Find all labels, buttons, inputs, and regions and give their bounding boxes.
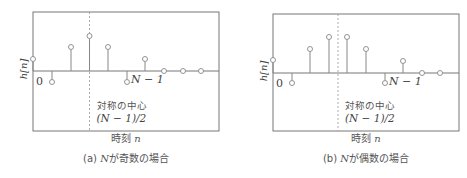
panel-b-stem-marker xyxy=(271,58,276,63)
panel-b-center-expr: (N − 1)/2 xyxy=(345,112,395,124)
panel-a-center-label: 対称の中心 xyxy=(97,100,147,111)
panel-a-center-expr: (N − 1)/2 xyxy=(97,112,147,124)
panel-a-ylabel: h[n] xyxy=(18,59,29,80)
panel-b-stem-marker xyxy=(327,35,332,40)
panel-a-stem-marker xyxy=(87,34,92,39)
panel-b-caption: (b) Nが偶数の場合 xyxy=(323,152,409,164)
panel-b-ylabel: h[n] xyxy=(258,61,269,82)
panel-a-stem-marker xyxy=(106,45,111,50)
panel-a-stem-marker xyxy=(125,80,130,85)
panel-b-center-label: 対称の中心 xyxy=(345,100,395,111)
panel-b-stem-marker xyxy=(401,59,406,64)
panel-b-stem-marker xyxy=(383,81,388,86)
panel-a-stem-marker xyxy=(199,69,204,74)
panel-a-stem-marker xyxy=(181,69,186,74)
panel-a-end-label: N − 1 xyxy=(130,73,164,86)
panel-a-stem-marker xyxy=(69,45,74,50)
panel-b-end-label: N − 1 xyxy=(388,75,422,88)
panel-a-origin-label: 0 xyxy=(36,75,43,88)
panel-a-xlabel: 時刻 n xyxy=(111,132,141,144)
panel-b-stem-marker xyxy=(364,47,369,52)
panel-b-stem-marker xyxy=(308,47,313,52)
panel-a-stem-marker xyxy=(143,57,148,62)
figure: h[n]0N − 1対称の中心(N − 1)/2時刻 n(a) Nが奇数の場合h… xyxy=(0,0,467,178)
panel-a-stem-marker xyxy=(31,57,36,62)
panel-b-stem-marker xyxy=(345,35,350,40)
panel-b-xlabel: 時刻 n xyxy=(351,132,381,144)
panel-a-caption: (a) Nが奇数の場合 xyxy=(83,152,169,164)
panel-b-origin-label: 0 xyxy=(276,77,283,90)
panel-b-stem-marker xyxy=(438,71,443,76)
panel-a-stem-marker xyxy=(50,80,55,85)
panel-b-stem-marker xyxy=(290,81,295,86)
